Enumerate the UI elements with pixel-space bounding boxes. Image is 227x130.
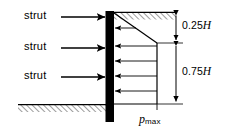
dimension-label-upper: 0.25H xyxy=(182,20,211,32)
strut-label-2: strut xyxy=(24,41,46,52)
dimension-symbol-upper: H xyxy=(203,19,211,31)
dimension-symbol-lower: H xyxy=(203,65,211,77)
bottom-ground-hatch xyxy=(18,105,106,112)
strut-label-1: strut xyxy=(24,10,46,21)
dimension-label-lower: 0.75H xyxy=(182,66,211,78)
pmax-subscript: max xyxy=(145,117,161,126)
pmax-label: pmax xyxy=(139,113,161,126)
dimension-value-lower: 0.75 xyxy=(182,65,203,77)
pressure-distribution-outline xyxy=(114,13,157,104)
pressure-diagram-figure: strut strut strut 0.25H 0.75H pmax xyxy=(0,0,227,130)
dimension-lines xyxy=(157,16,183,105)
sheet-pile-wall xyxy=(106,11,115,122)
top-ground-hatch xyxy=(114,12,176,19)
pressure-arrows xyxy=(115,28,157,91)
dimension-value-upper: 0.25 xyxy=(182,19,203,31)
strut-label-3: strut xyxy=(24,70,46,81)
